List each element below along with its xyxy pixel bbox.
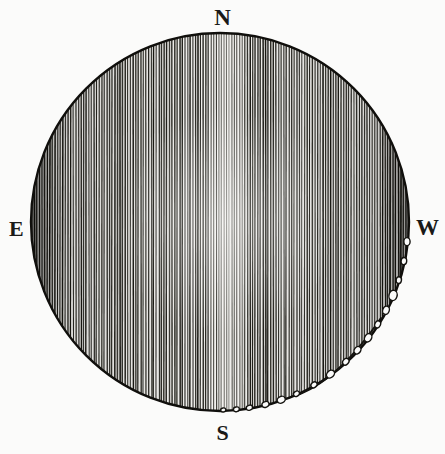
limb-chain-circle bbox=[396, 276, 402, 284]
engraving-figure: N E W S bbox=[0, 0, 445, 454]
cardinal-label-east: E bbox=[9, 218, 24, 240]
cardinal-label-south: S bbox=[0, 422, 445, 444]
cardinal-label-north: N bbox=[0, 6, 445, 29]
limb-chain-circle bbox=[404, 238, 411, 246]
disc-diagram-svg bbox=[0, 0, 445, 454]
cardinal-label-west: W bbox=[416, 216, 439, 239]
limb-chain-circle bbox=[220, 408, 226, 413]
limb-chain-circle bbox=[233, 406, 240, 412]
limb-chain-circle bbox=[401, 257, 407, 265]
